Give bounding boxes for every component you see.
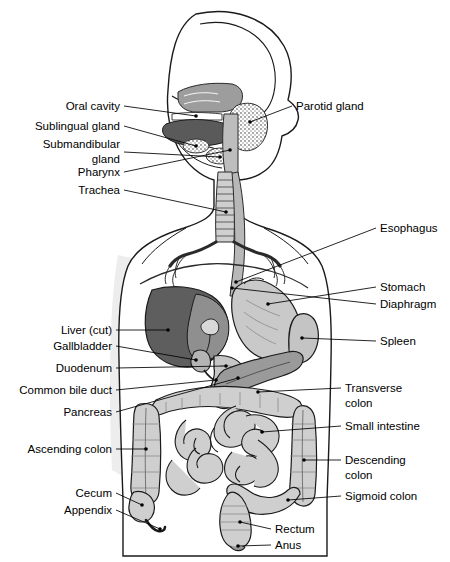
anchor-common-bile-duct: [214, 378, 218, 382]
anchor-rectum: [238, 520, 242, 524]
anchor-parotid-gland: [248, 120, 252, 124]
label-appendix: Appendix: [64, 504, 112, 516]
label-line: Trachea: [78, 184, 120, 196]
label-line: Small intestine: [345, 420, 420, 432]
label-line: gland: [92, 153, 120, 165]
label-trachea: Trachea: [78, 184, 120, 196]
anchor-trachea: [224, 210, 228, 214]
label-line: Transverse: [345, 382, 402, 394]
anchor-pancreas: [236, 376, 240, 380]
anchor-cecum: [140, 503, 144, 507]
label-parotid-gland: Parotid gland: [296, 100, 364, 112]
label-oral-cavity: Oral cavity: [66, 100, 121, 112]
label-line: Sigmoid colon: [345, 490, 417, 502]
label-duodenum: Duodenum: [56, 362, 112, 374]
label-rectum: Rectum: [275, 523, 315, 535]
anchor-esophagus: [234, 280, 238, 284]
label-line: colon: [345, 397, 373, 409]
gallbladder: [191, 350, 211, 372]
label-diaphragm: Diaphragm: [380, 298, 436, 310]
label-gallbladder: Gallbladder: [53, 340, 112, 352]
anchor-small-intestine: [260, 430, 264, 434]
digestive-system-figure: Oral cavitySublingual glandSubmandibular…: [0, 0, 450, 562]
anchor-ascending-colon: [144, 447, 148, 451]
label-sigmoid-colon: Sigmoid colon: [345, 490, 417, 502]
label-line: Submandibular: [43, 138, 121, 150]
anchor-diaphragm: [230, 286, 234, 290]
label-line: Liver (cut): [61, 324, 112, 336]
anchor-transverse-colon: [256, 390, 260, 394]
label-ascending-colon: Ascending colon: [28, 443, 112, 455]
label-small-intestine: Small intestine: [345, 420, 420, 432]
nasal-cavity: [178, 83, 243, 112]
label-sublingual-gland: Sublingual gland: [35, 120, 120, 132]
anchor-spleen: [300, 336, 304, 340]
label-line: Cecum: [76, 487, 112, 499]
label-line: Appendix: [64, 504, 112, 516]
label-line: Diaphragm: [380, 298, 436, 310]
anchor-gallbladder: [194, 358, 198, 362]
trachea: [216, 172, 235, 242]
label-line: colon: [345, 469, 373, 481]
anchor-sigmoid-colon: [286, 498, 290, 502]
label-line: Sublingual gland: [35, 120, 120, 132]
anchor-submandibular-gland: [218, 155, 222, 159]
anchor-sublingual-gland: [194, 144, 198, 148]
label-line: Parotid gland: [296, 100, 364, 112]
anchor-anus: [236, 544, 240, 548]
anchor-descending-colon: [302, 458, 306, 462]
label-stomach: Stomach: [380, 281, 425, 293]
label-line: Pancreas: [63, 406, 112, 418]
anchor-appendix: [158, 527, 162, 531]
label-esophagus: Esophagus: [380, 222, 438, 234]
anchor-stomach: [266, 302, 270, 306]
label-line: Ascending colon: [28, 443, 112, 455]
anchor-duodenum: [224, 364, 228, 368]
label-line: Anus: [275, 539, 301, 551]
label-line: Spleen: [380, 335, 416, 347]
label-line: Descending: [345, 454, 406, 466]
label-line: Gallbladder: [53, 340, 112, 352]
label-line: Common bile duct: [19, 384, 112, 396]
label-pharynx: Pharynx: [78, 166, 120, 178]
label-line: Pharynx: [78, 166, 120, 178]
label-line: Duodenum: [56, 362, 112, 374]
anchor-pharynx: [228, 148, 232, 152]
label-pancreas: Pancreas: [63, 406, 112, 418]
label-line: Stomach: [380, 281, 425, 293]
label-liver-cut: Liver (cut): [61, 324, 112, 336]
label-common-bile-duct: Common bile duct: [19, 384, 112, 396]
label-spleen: Spleen: [380, 335, 416, 347]
label-cecum: Cecum: [76, 487, 112, 499]
label-line: Oral cavity: [66, 100, 121, 112]
label-line: Rectum: [275, 523, 315, 535]
anchor-oral-cavity: [194, 114, 198, 118]
pharynx: [223, 114, 238, 176]
anchor-liver-cut: [166, 328, 170, 332]
label-line: Esophagus: [380, 222, 438, 234]
label-anus: Anus: [275, 539, 301, 551]
